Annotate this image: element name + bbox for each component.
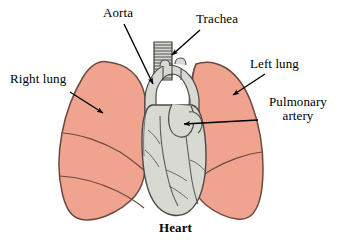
- label-right-lung: Right lung: [10, 72, 66, 86]
- label-heart: Heart: [159, 221, 192, 235]
- label-pulmonary-artery-line1: Pulmonary: [260, 95, 336, 109]
- label-pulmonary-artery: Pulmonary artery: [260, 95, 336, 123]
- right-lung-shape: [59, 62, 145, 220]
- label-trachea: Trachea: [196, 12, 238, 26]
- label-aorta: Aorta: [103, 6, 133, 20]
- anatomy-diagram-page: Right lung Left lung Aorta Trachea Pulmo…: [0, 0, 340, 247]
- anatomy-figure: [0, 0, 340, 247]
- heart-shape: [142, 104, 206, 215]
- label-left-lung: Left lung: [250, 57, 299, 71]
- label-pulmonary-artery-line2: artery: [260, 109, 336, 123]
- leader-trachea: [172, 30, 200, 55]
